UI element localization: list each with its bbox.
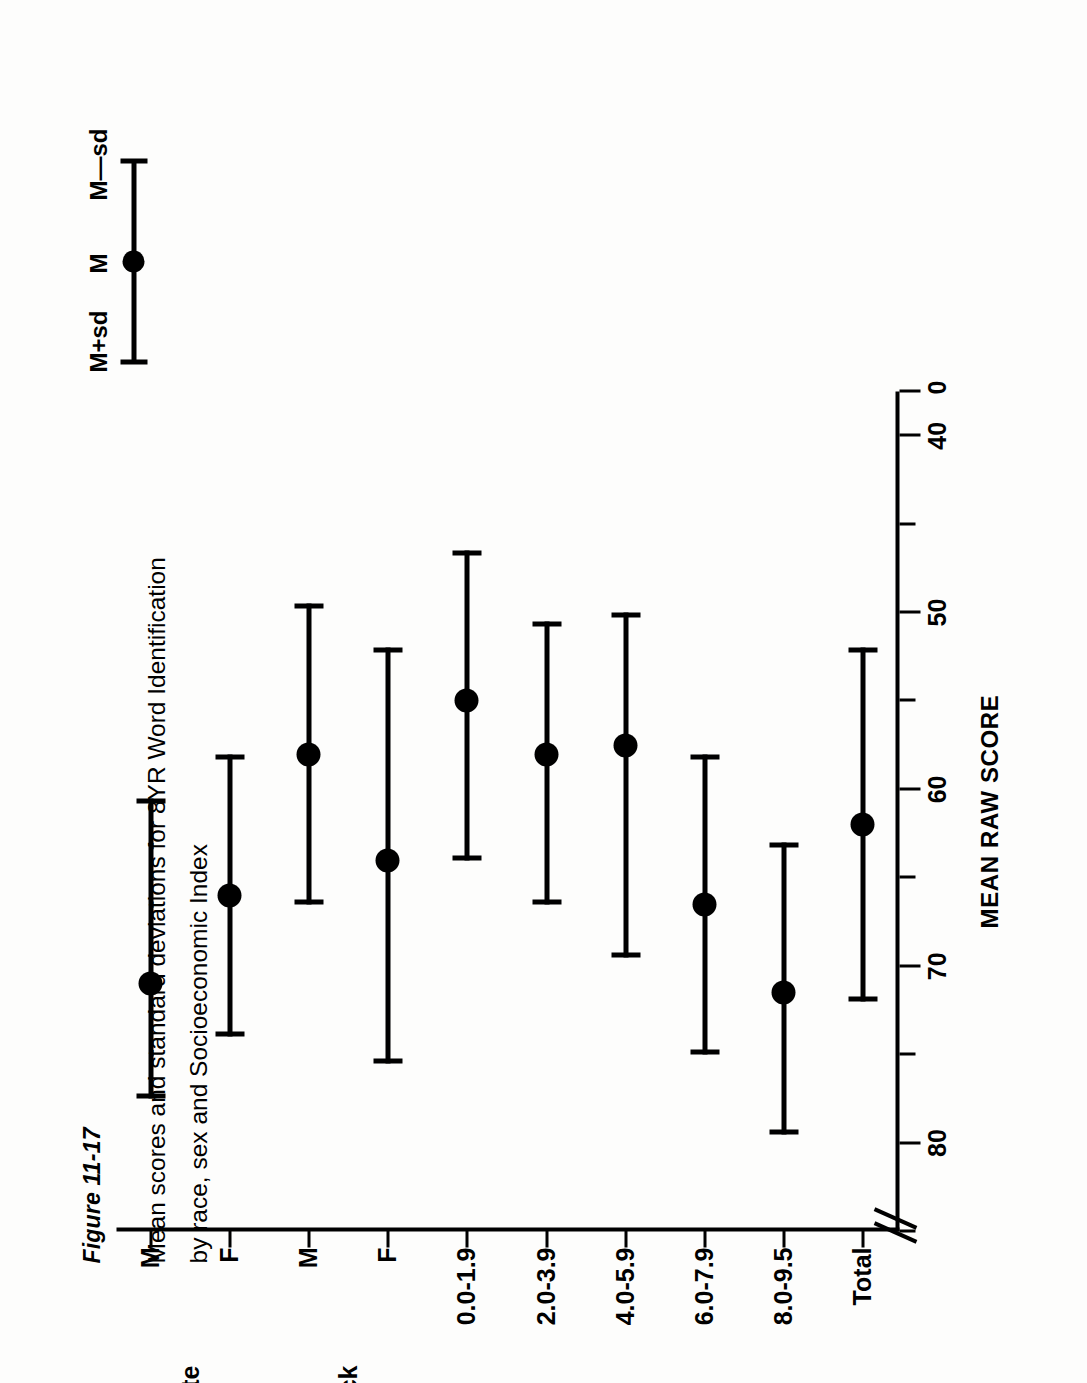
error-bar-line — [623, 612, 628, 957]
value-axis-tick-label: 80 — [922, 1129, 951, 1157]
category-tick-label: 0.0-1.9 — [452, 1233, 481, 1383]
figure-canvas: Figure 11-17 Mean scores and standard de… — [0, 0, 1087, 1383]
error-bar-cap-lower — [136, 798, 165, 803]
error-bar-cap-lower — [452, 550, 481, 555]
mean-point — [692, 892, 716, 916]
error-bar-cap-upper — [611, 952, 640, 957]
category-tick-label: 2.0-3.9 — [531, 1233, 560, 1383]
value-axis-tick — [899, 610, 920, 613]
mean-point — [454, 688, 478, 712]
error-bar — [608, 612, 642, 957]
mean-point — [850, 812, 874, 836]
error-bar — [449, 550, 483, 859]
error-bar-cap-lower — [769, 842, 798, 847]
error-bar-cap-lower — [215, 754, 244, 759]
mean-point — [534, 742, 558, 766]
value-axis-tick-label-zero: 0 — [922, 380, 951, 394]
mean-point — [375, 848, 399, 872]
plot-area: 80706050400 MFMF0.0-1.92.0-3.94.0-5.96.0… — [0, 0, 1087, 1383]
value-axis-tick — [899, 1052, 915, 1055]
error-bar-cap-lower — [690, 754, 719, 759]
value-axis-tick-label: 70 — [922, 952, 951, 980]
value-axis-title: MEAN RAW SCORE — [975, 391, 1003, 1231]
mean-point — [296, 742, 320, 766]
error-bar-cap-upper — [532, 899, 561, 904]
error-bar — [766, 842, 800, 1134]
error-bar-cap-upper — [769, 1129, 798, 1134]
rotated-figure-wrapper: Figure 11-17 Mean scores and standard de… — [0, 0, 1087, 1383]
value-axis-tick-label: 60 — [922, 775, 951, 803]
value-axis-tick-label: 40 — [922, 421, 951, 449]
category-group-label: Black — [333, 1351, 362, 1383]
mean-point — [217, 883, 241, 907]
value-axis-line — [895, 391, 899, 1231]
error-bar-cap-upper — [690, 1049, 719, 1054]
category-tick-label: 6.0-7.9 — [689, 1233, 718, 1383]
error-bar-cap-lower — [611, 612, 640, 617]
value-axis-tick — [899, 522, 915, 525]
value-axis-tick — [899, 787, 920, 790]
error-bar-cap-upper — [136, 1093, 165, 1098]
error-bar — [845, 647, 879, 1001]
category-tick-label: F — [373, 1233, 402, 1383]
error-bar-cap-upper — [848, 996, 877, 1001]
error-bar — [529, 621, 563, 904]
value-axis-tick — [899, 698, 915, 701]
figure-page: Figure 11-17 Mean scores and standard de… — [0, 0, 1087, 1383]
mean-point — [771, 980, 795, 1004]
value-axis-tick — [899, 964, 920, 967]
axis-break-icon — [872, 1204, 920, 1244]
error-bar-cap-lower — [373, 647, 402, 652]
error-bar-cap-lower — [848, 647, 877, 652]
category-group-label: White — [175, 1351, 204, 1383]
error-bar-line — [148, 798, 153, 1099]
category-tick-label: M — [136, 1233, 165, 1383]
error-bar-cap-upper — [452, 855, 481, 860]
category-tick-label: 4.0-5.9 — [610, 1233, 639, 1383]
error-bar-cap-lower — [532, 621, 561, 626]
error-bar — [291, 603, 325, 904]
error-bar-cap-lower — [294, 603, 323, 608]
error-bar — [133, 798, 167, 1099]
mean-point — [613, 733, 637, 757]
mean-point — [138, 971, 162, 995]
value-axis-tick — [899, 875, 915, 878]
category-tick-label: M — [294, 1233, 323, 1383]
category-tick-label: F — [215, 1233, 244, 1383]
error-bar-cap-upper — [373, 1058, 402, 1063]
value-axis-tick-zero — [899, 389, 920, 392]
error-bar — [212, 754, 246, 1037]
error-bar — [687, 754, 721, 1055]
value-axis-tick-label: 50 — [922, 598, 951, 626]
error-bar — [370, 647, 404, 1063]
category-tick-label: 8.0-9.5 — [768, 1233, 797, 1383]
category-tick-label: Total — [848, 1233, 877, 1383]
error-bar-cap-upper — [294, 899, 323, 904]
value-axis-tick — [899, 433, 920, 436]
value-axis-tick — [899, 1229, 915, 1232]
error-bar-cap-upper — [215, 1031, 244, 1036]
value-axis-tick — [899, 1141, 920, 1144]
